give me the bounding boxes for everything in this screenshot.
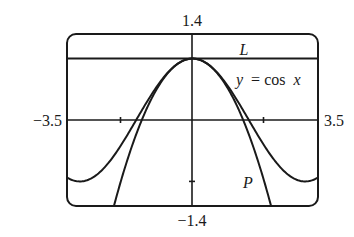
- label-cos-eq: = cos: [251, 71, 285, 88]
- label-L: L: [239, 41, 249, 58]
- xmin-label: −3.5: [33, 112, 62, 129]
- ymin-label: −1.4: [177, 212, 206, 229]
- xmax-label: 3.5: [324, 112, 344, 129]
- ymax-label: 1.4: [182, 12, 202, 29]
- label-P: P: [242, 174, 253, 191]
- label-cos: y = cos x: [234, 71, 301, 89]
- graph-figure: 1.4 −1.4 −3.5 3.5 L y = cos x P: [0, 0, 354, 237]
- label-cos-y: y: [234, 71, 244, 89]
- label-cos-x: x: [292, 71, 300, 88]
- axes: [67, 34, 318, 206]
